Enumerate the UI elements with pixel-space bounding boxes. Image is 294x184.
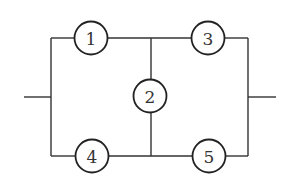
node-label: 3 <box>203 29 214 49</box>
node-label: 2 <box>145 87 156 107</box>
node-3: 3 <box>192 22 225 55</box>
nodes: 12345 <box>75 22 226 173</box>
node-label: 4 <box>87 147 98 167</box>
node-1: 1 <box>75 22 108 55</box>
node-2: 2 <box>134 80 167 113</box>
node-label: 5 <box>204 147 215 167</box>
node-4: 4 <box>76 140 109 173</box>
node-label: 1 <box>86 29 97 49</box>
bridge-network-diagram: 12345 <box>0 0 294 184</box>
node-5: 5 <box>193 140 226 173</box>
